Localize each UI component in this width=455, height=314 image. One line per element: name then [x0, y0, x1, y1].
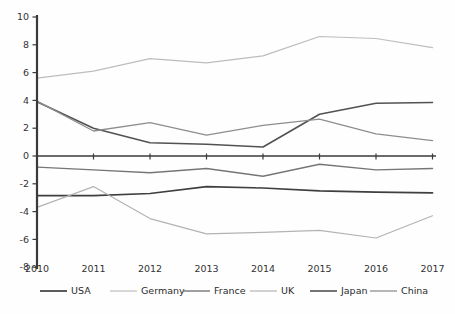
- legend-item-france: France: [183, 285, 246, 296]
- y-tick-label--6: -6: [20, 234, 29, 245]
- y-tick-label-4: 4: [23, 95, 29, 106]
- x-tick-label-2012: 2012: [138, 263, 162, 274]
- line-chart: 1086420-2-4-6-82010201120122013201420152…: [0, 0, 455, 314]
- legend-label-germany: Germany: [141, 285, 185, 296]
- y-tick-label--2: -2: [20, 178, 29, 189]
- series-line-germany: [37, 37, 433, 79]
- x-tick-label-2017: 2017: [420, 263, 444, 274]
- series-line-uk: [37, 187, 433, 238]
- y-tick-label-6: 6: [23, 67, 29, 78]
- legend-item-germany: Germany: [110, 285, 185, 296]
- y-tick-label--4: -4: [20, 206, 29, 217]
- x-tick-label-2016: 2016: [364, 263, 388, 274]
- x-tick-label-2011: 2011: [81, 263, 105, 274]
- y-tick-label-0: 0: [23, 150, 29, 161]
- legend-item-uk: UK: [250, 285, 295, 296]
- y-tick-label-10: 10: [17, 11, 29, 22]
- stray-mark: [256, 187, 258, 189]
- legend-label-china: China: [401, 285, 428, 296]
- series-line-japan: [37, 102, 433, 147]
- y-tick-label-2: 2: [23, 122, 29, 133]
- series-line-china: [37, 101, 433, 141]
- chart-screenshot: 1086420-2-4-6-82010201120122013201420152…: [0, 0, 455, 314]
- x-tick-label-2014: 2014: [251, 263, 275, 274]
- x-tick-label-2013: 2013: [194, 263, 218, 274]
- legend-label-usa: USA: [71, 285, 91, 296]
- legend-label-uk: UK: [281, 285, 295, 296]
- legend-label-japan: Japan: [340, 285, 368, 296]
- legend-item-usa: USA: [40, 285, 91, 296]
- legend-item-japan: Japan: [310, 285, 368, 296]
- legend-item-china: China: [370, 285, 428, 296]
- x-tick-label-2010: 2010: [25, 263, 49, 274]
- x-tick-label-2015: 2015: [307, 263, 331, 274]
- legend-label-france: France: [214, 285, 246, 296]
- series-line-france: [37, 164, 433, 176]
- y-tick-label-8: 8: [23, 39, 29, 50]
